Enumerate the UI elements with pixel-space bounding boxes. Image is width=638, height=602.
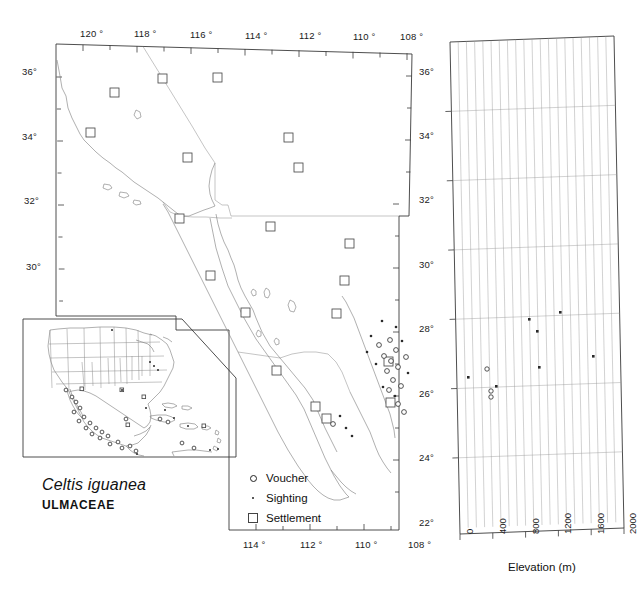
voucher-circle-icon	[396, 365, 401, 370]
voucher-circle-icon	[331, 422, 336, 427]
voucher-circle-icon	[394, 348, 399, 353]
settlement-square-icon	[142, 395, 146, 399]
voucher-circle-icon	[489, 395, 493, 399]
elev-tick-800: 800	[530, 518, 541, 534]
voucher-circle-icon	[88, 421, 92, 425]
sighting-dot-icon	[536, 330, 539, 333]
sighting-dot-icon	[209, 449, 211, 451]
sighting-dot-icon	[157, 369, 159, 371]
sighting-dot-icon	[149, 361, 151, 363]
voucher-circle-icon	[64, 388, 68, 392]
lat-label-right-30: 30°	[419, 259, 434, 270]
voucher-circle-icon	[180, 441, 184, 445]
elev-tick-2000: 2000	[627, 513, 638, 534]
settlement-square-icon	[322, 414, 331, 423]
map-legend: Voucher Sighting Settlement	[243, 468, 321, 528]
sighting-dot-icon	[217, 448, 219, 450]
legend-item-sighting[interactable]: Sighting	[243, 488, 321, 508]
elevation-axis-title: Elevation (m)	[508, 561, 576, 573]
voucher-circle-icon	[402, 410, 407, 415]
inset-north-america-map[interactable]	[22, 318, 237, 458]
voucher-circle-icon	[243, 475, 263, 482]
sighting-dot-icon	[164, 409, 166, 411]
settlement-square-icon	[294, 163, 303, 172]
sighting-dot-icon	[394, 395, 397, 398]
voucher-circle-icon	[82, 415, 86, 419]
settlement-square-icon	[311, 402, 320, 411]
legend-label-settlement: Settlement	[266, 512, 321, 524]
legend-label-voucher: Voucher	[266, 472, 308, 484]
voucher-circle-icon	[377, 343, 382, 348]
inset-frame	[23, 319, 236, 457]
sighting-dot-icon	[382, 386, 385, 389]
elev-tick-400: 400	[497, 518, 508, 534]
lat-label-right-36: 36°	[419, 66, 434, 77]
voucher-circle-icon	[489, 389, 493, 393]
settlement-square-icon	[158, 74, 167, 83]
lat-label-right-28: 28°	[419, 323, 434, 334]
settlement-square-icon	[86, 128, 95, 137]
voucher-circle-icon	[388, 338, 393, 343]
voucher-circle-icon	[94, 426, 98, 430]
settlement-square-icon	[345, 239, 354, 248]
voucher-circle-icon	[78, 406, 82, 410]
settlement-square-icon	[213, 73, 222, 82]
sighting-dot-icon	[407, 372, 410, 375]
settlement-square-icon	[241, 308, 250, 317]
sighting-dot-icon	[395, 326, 398, 329]
voucher-circle-icon	[98, 436, 102, 440]
voucher-circle-icon	[396, 402, 401, 407]
voucher-circle-icon	[70, 395, 74, 399]
sighting-dot-icon	[495, 385, 498, 388]
voucher-circle-icon	[158, 417, 162, 421]
sighting-dot-icon	[370, 335, 373, 338]
elevation-latitude-scatter[interactable]	[438, 28, 628, 548]
elev-tick-0: 0	[464, 529, 475, 534]
voucher-circle-icon	[391, 378, 396, 383]
sighting-dot-icon	[467, 376, 470, 379]
lat-label-right-34: 34°	[419, 130, 434, 141]
legend-item-settlement[interactable]: Settlement	[243, 508, 321, 528]
sighting-dot-icon	[243, 497, 263, 500]
settlement-square-icon	[80, 387, 84, 391]
species-family: ULMACEAE	[42, 498, 146, 512]
settlement-square-icon	[206, 271, 215, 280]
legend-label-sighting: Sighting	[266, 492, 308, 504]
settlement-square-icon	[266, 222, 275, 231]
voucher-circle-icon	[90, 432, 94, 436]
voucher-circle-icon	[404, 355, 409, 360]
settlement-square-icon	[202, 424, 206, 428]
species-caption: Celtis iguanea ULMACEAE	[42, 476, 146, 512]
voucher-circle-icon	[166, 420, 170, 424]
voucher-markers[interactable]	[331, 338, 409, 427]
voucher-circle-icon	[485, 367, 489, 371]
voucher-circle-icon	[387, 388, 392, 393]
sighting-dot-icon	[559, 311, 562, 314]
settlement-square-icon	[332, 309, 341, 318]
sighting-dot-icon	[153, 365, 155, 367]
sighting-dot-icon	[381, 320, 384, 323]
voucher-circle-icon	[134, 449, 138, 453]
settlement-square-icon	[386, 398, 395, 407]
sighting-dot-icon	[366, 351, 369, 354]
voucher-circle-icon	[389, 359, 394, 364]
sighting-dot-icon	[121, 389, 123, 391]
voucher-circle-icon	[382, 354, 387, 359]
voucher-circle-icon	[399, 384, 404, 389]
settlement-square-icon	[284, 133, 293, 142]
sighting-dot-icon	[351, 435, 354, 438]
voucher-circle-icon	[128, 444, 132, 448]
sighting-dot-icon	[528, 318, 531, 321]
elev-tick-1600: 1600	[595, 513, 606, 534]
voucher-circle-icon	[84, 426, 88, 430]
map-left-ticks	[56, 77, 64, 301]
voucher-circle-icon	[77, 419, 81, 423]
sighting-dot-icon	[173, 417, 175, 419]
sighting-dot-icon	[136, 453, 138, 455]
settlement-square-icon	[175, 214, 184, 223]
lat-label-right-26: 26°	[419, 388, 434, 399]
legend-item-voucher[interactable]: Voucher	[243, 468, 321, 488]
settlement-square-icon	[126, 423, 130, 427]
settlement-square-icon	[183, 153, 192, 162]
